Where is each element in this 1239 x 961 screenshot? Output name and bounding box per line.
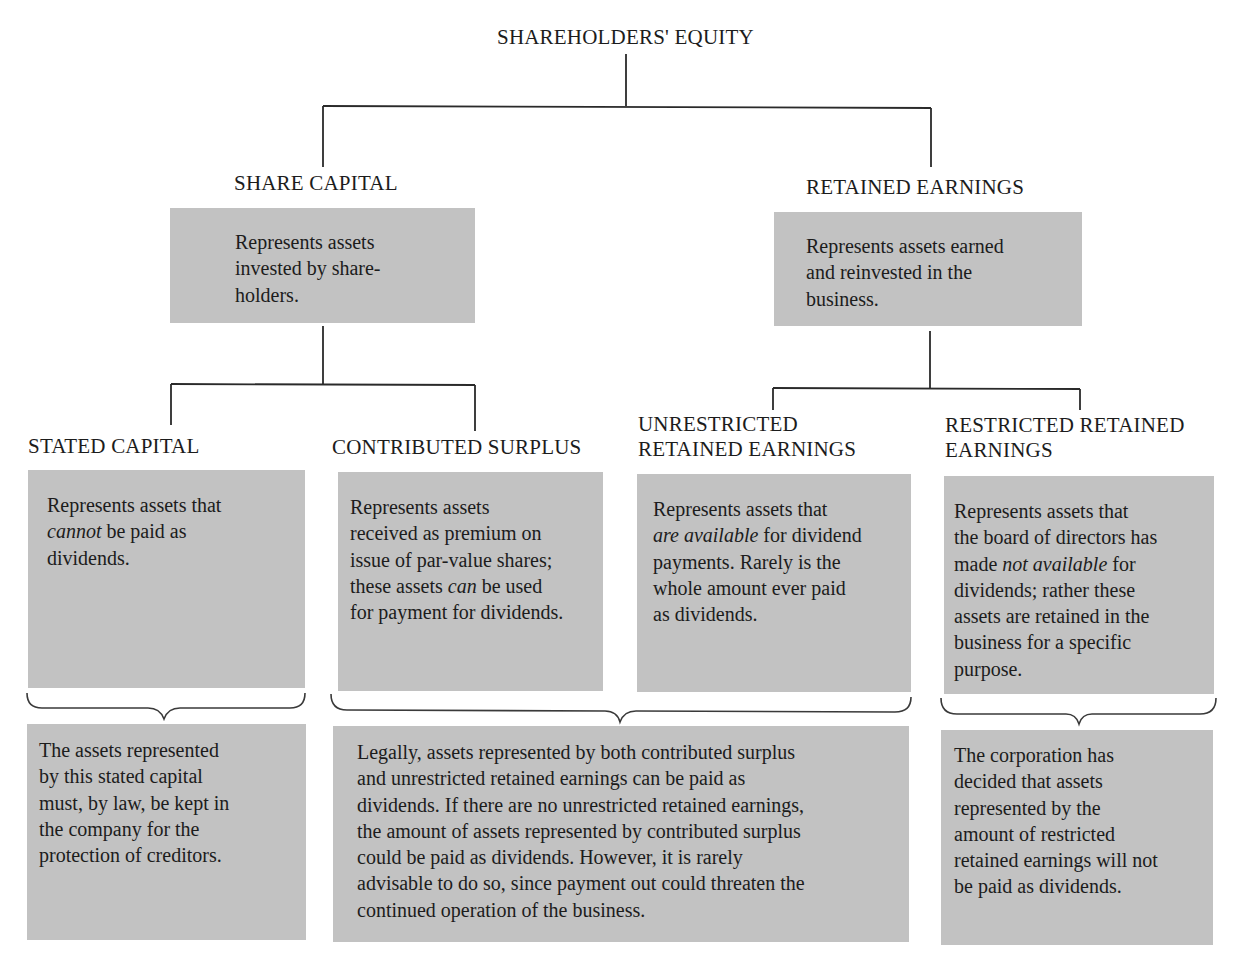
- share-capital-desc-line: holders.: [235, 282, 475, 308]
- label-line: RETAINED EARNINGS: [638, 437, 856, 462]
- text-run: issue of par-value shares;: [350, 549, 552, 571]
- brace-restricted: [941, 698, 1216, 724]
- retained-earnings-box: Represents assets earned and reinvested …: [774, 212, 1082, 326]
- retained-earnings-desc-line: business.: [806, 286, 1082, 312]
- label-line: UNRESTRICTED: [638, 412, 856, 437]
- brace-dividend-eligible: [331, 694, 911, 722]
- text-run: for dividend: [758, 524, 861, 546]
- text-run: Represents assets: [350, 496, 489, 518]
- text-run: dividends.: [47, 547, 130, 569]
- emphasis-text: not available: [1002, 553, 1107, 575]
- restricted-retained-earnings-label: RESTRICTED RETAINED EARNINGS: [945, 413, 1185, 463]
- description-line: these assets can be used: [350, 573, 603, 599]
- label-line: EARNINGS: [945, 438, 1185, 463]
- text-run: as dividends.: [653, 603, 757, 625]
- share-capital-crossbar: [171, 384, 475, 385]
- root-crossbar: [323, 106, 931, 108]
- text-run: these assets: [350, 575, 448, 597]
- description-line: are available for dividend: [653, 522, 911, 548]
- note-line: could be paid as dividends. However, it …: [357, 844, 909, 870]
- share-capital-desc-line: invested by share-: [235, 255, 475, 281]
- note-line: be paid as dividends.: [954, 873, 1213, 899]
- description-line: Represents assets: [350, 494, 603, 520]
- label-line: RESTRICTED RETAINED: [945, 413, 1185, 438]
- note-line: Legally, assets represented by both cont…: [357, 739, 909, 765]
- root-label: SHAREHOLDERS' EQUITY: [497, 25, 754, 50]
- note-line: advisable to do so, since payment out co…: [357, 870, 909, 896]
- description-line: assets are retained in the: [954, 603, 1214, 629]
- text-run: whole amount ever paid: [653, 577, 846, 599]
- description-line: the board of directors has: [954, 524, 1214, 550]
- text-run: the board of directors has: [954, 526, 1157, 548]
- description-line: Represents assets that: [653, 496, 911, 522]
- note-line: continued operation of the business.: [357, 897, 909, 923]
- share-capital-box: Represents assets invested by share- hol…: [170, 208, 475, 323]
- text-run: business for a specific: [954, 631, 1131, 653]
- description-line: payments. Rarely is the: [653, 549, 911, 575]
- text-run: payments. Rarely is the: [653, 551, 841, 573]
- note-line: represented by the: [954, 795, 1213, 821]
- text-run: Represents assets that: [954, 500, 1128, 522]
- text-run: purpose.: [954, 658, 1022, 680]
- text-run: Represents assets that: [47, 494, 221, 516]
- unrestricted-retained-earnings-label: UNRESTRICTED RETAINED EARNINGS: [638, 412, 856, 462]
- note-line: decided that assets: [954, 768, 1213, 794]
- dividend-eligible-note-box: Legally, assets represented by both cont…: [333, 726, 909, 942]
- retained-earnings-desc-line: and reinvested in the: [806, 259, 1082, 285]
- brace-stated-capital: [27, 693, 305, 719]
- emphasis-text: cannot: [47, 520, 101, 542]
- share-capital-label: SHARE CAPITAL: [234, 171, 398, 196]
- retained-earnings-crossbar: [773, 388, 1080, 389]
- stated-capital-label: STATED CAPITAL: [28, 434, 200, 459]
- description-line: whole amount ever paid: [653, 575, 911, 601]
- text-run: be used: [477, 575, 543, 597]
- text-run: received as premium on: [350, 522, 542, 544]
- description-line: Represents assets that: [954, 498, 1214, 524]
- text-run: for payment for dividends.: [350, 601, 563, 623]
- description-line: cannot be paid as: [47, 518, 305, 544]
- text-run: made: [954, 553, 1002, 575]
- note-line: The assets represented: [39, 737, 306, 763]
- note-line: The corporation has: [954, 742, 1213, 768]
- description-line: dividends; rather these: [954, 577, 1214, 603]
- text-run: assets are retained in the: [954, 605, 1149, 627]
- note-line: the company for the: [39, 816, 306, 842]
- description-line: Represents assets that: [47, 492, 305, 518]
- description-line: as dividends.: [653, 601, 911, 627]
- note-line: dividends. If there are no unrestricted …: [357, 792, 909, 818]
- note-line: retained earnings will not: [954, 847, 1213, 873]
- restricted-retained-earnings-box: Represents assets thatthe board of direc…: [944, 476, 1214, 694]
- share-capital-desc-line: Represents assets: [235, 229, 475, 255]
- stated-capital-box: Represents assets thatcannot be paid asd…: [28, 470, 305, 688]
- note-line: protection of creditors.: [39, 842, 306, 868]
- retained-earnings-label: RETAINED EARNINGS: [806, 175, 1024, 200]
- description-line: dividends.: [47, 545, 305, 571]
- text-run: dividends; rather these: [954, 579, 1135, 601]
- description-line: received as premium on: [350, 520, 603, 546]
- description-line: for payment for dividends.: [350, 599, 603, 625]
- emphasis-text: can: [448, 575, 477, 597]
- note-line: must, by law, be kept in: [39, 790, 306, 816]
- text-run: Represents assets that: [653, 498, 827, 520]
- unrestricted-retained-earnings-box: Represents assets thatare available for …: [637, 474, 911, 692]
- contributed-surplus-label: CONTRIBUTED SURPLUS: [332, 435, 581, 460]
- description-line: business for a specific: [954, 629, 1214, 655]
- text-run: be paid as: [101, 520, 186, 542]
- note-line: the amount of assets represented by cont…: [357, 818, 909, 844]
- emphasis-text: are available: [653, 524, 758, 546]
- note-line: and unrestricted retained earnings can b…: [357, 765, 909, 791]
- restricted-note-box: The corporation hasdecided that assetsre…: [941, 730, 1213, 945]
- note-line: by this stated capital: [39, 763, 306, 789]
- description-line: issue of par-value shares;: [350, 547, 603, 573]
- note-line: amount of restricted: [954, 821, 1213, 847]
- description-line: made not available for: [954, 551, 1214, 577]
- contributed-surplus-box: Represents assetsreceived as premium oni…: [338, 472, 603, 691]
- stated-capital-note-box: The assets representedby this stated cap…: [27, 724, 306, 940]
- retained-earnings-desc-line: Represents assets earned: [806, 233, 1082, 259]
- description-line: purpose.: [954, 656, 1214, 682]
- text-run: for: [1107, 553, 1135, 575]
